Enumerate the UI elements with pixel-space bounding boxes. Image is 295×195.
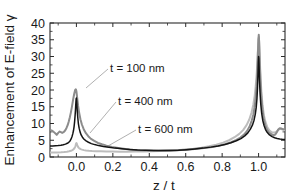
x-tick-label: 0.2 — [104, 160, 121, 174]
annotation-label-3: t = 600 nm — [138, 123, 193, 135]
annotation-leader-2 — [90, 102, 116, 133]
plot-frame — [50, 23, 285, 157]
x-tick-label: 1.0 — [250, 160, 267, 174]
axes-frame — [50, 23, 285, 157]
y-tick-label: 35 — [31, 33, 45, 47]
y-axis-title: Enhancement of E-field γ — [2, 14, 17, 165]
series-annotations: t = 100 nmt = 400 nmt = 600 nm — [110, 62, 193, 135]
y-tick-label: 0 — [38, 151, 45, 165]
y-tick-label: 10 — [31, 117, 45, 131]
x-tick-label: 0.4 — [141, 160, 158, 174]
annotation-leaders — [86, 69, 136, 146]
annotation-label-1: t = 100 nm — [110, 62, 165, 74]
chart-figure: 0.00.20.40.60.81.00510152025303540 t = 1… — [0, 0, 295, 195]
annotation-label-2: t = 400 nm — [118, 95, 173, 107]
y-tick-label: 15 — [31, 100, 45, 114]
annotation-leader-1 — [86, 69, 108, 88]
x-tick-label: 0.6 — [177, 160, 194, 174]
x-tick-label: 0.0 — [68, 160, 85, 174]
y-tick-label: 30 — [31, 50, 45, 64]
y-tick-label: 40 — [31, 17, 45, 31]
enhancement-line-chart: 0.00.20.40.60.81.00510152025303540 t = 1… — [0, 0, 295, 195]
annotation-leader-3 — [108, 130, 136, 146]
x-tick-label: 0.8 — [213, 160, 230, 174]
y-tick-label: 20 — [31, 84, 45, 98]
y-tick-label: 25 — [31, 67, 45, 81]
x-axis-title: z / t — [153, 178, 175, 193]
y-tick-label: 5 — [38, 134, 45, 148]
